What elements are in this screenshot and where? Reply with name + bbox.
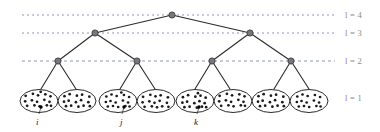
leaf-dot <box>295 101 298 104</box>
leaf-cluster[interactable] <box>290 90 328 113</box>
leaf-dot <box>257 95 260 98</box>
leaf-dot <box>274 99 277 102</box>
edge-root-n3b <box>172 15 250 33</box>
leaf-dot <box>143 105 146 108</box>
tree-edges <box>41 15 309 89</box>
leaf-dot <box>36 101 39 104</box>
marked-dot-k <box>197 105 200 108</box>
leaf-dot <box>105 95 108 98</box>
tree-node-n2b[interactable] <box>134 58 140 64</box>
leaf-dot <box>80 99 83 102</box>
tree-node-root[interactable] <box>169 12 175 18</box>
edge-n2a-leaf2 <box>58 61 76 89</box>
leaf-dot <box>148 100 151 103</box>
leaf-dot <box>282 105 285 108</box>
tree-node-n2d[interactable] <box>288 58 294 64</box>
leaf-cluster[interactable] <box>99 90 137 113</box>
leaf-dot <box>201 105 204 108</box>
leaf-dot <box>26 105 29 108</box>
marked-dot-i <box>39 105 42 108</box>
leaf-dot <box>303 105 306 108</box>
leaf-cluster[interactable] <box>58 90 96 113</box>
leaf-clusters <box>20 90 328 113</box>
tree-node-n3a[interactable] <box>92 30 98 36</box>
leaf-dot <box>156 106 159 109</box>
level-label-3: l = 3 <box>345 28 362 38</box>
leaf-dot <box>109 100 112 103</box>
leaf-dot <box>82 104 85 107</box>
leaf-dot <box>204 96 207 99</box>
leaf-dot <box>227 104 230 107</box>
leaf-dot <box>77 105 80 108</box>
leaf-dot <box>39 91 42 94</box>
leaf-dot <box>232 105 235 108</box>
leaf-dot <box>67 99 70 102</box>
leaf-dot <box>166 101 169 104</box>
tree-diagram-canvas <box>0 0 380 132</box>
leaf-dot <box>194 95 197 98</box>
leaf-dot <box>181 101 184 104</box>
edge-n2b-leaf3 <box>120 61 137 89</box>
leaf-cluster[interactable] <box>252 90 290 113</box>
hierarchical-tree-figure: l = 4 l = 3 l = 2 l = 1 i j k <box>0 0 380 132</box>
leaf-dot <box>106 105 109 108</box>
leaf-dot <box>63 95 66 98</box>
leaf-dot <box>308 106 311 109</box>
level-guide-lines <box>22 15 335 61</box>
leaf-dot <box>230 101 233 104</box>
leaf-dot <box>45 104 48 107</box>
leaf-dot <box>24 95 27 98</box>
leaf-dot <box>43 99 46 102</box>
leaf-dot <box>115 95 118 98</box>
leaf-dot <box>110 93 113 96</box>
leaf-dot <box>319 96 322 99</box>
leaf-dot <box>205 106 208 109</box>
leaf-cluster[interactable] <box>137 90 175 113</box>
edge-root-n3a <box>95 15 172 33</box>
leaf-dot <box>88 95 91 98</box>
leaf-dot <box>87 101 90 104</box>
leaf-dot <box>33 104 36 107</box>
leaf-ellipse <box>176 90 214 113</box>
leaf-cluster[interactable] <box>176 90 214 113</box>
edge-n3a-n2a <box>58 33 95 61</box>
leaf-dot <box>183 106 186 109</box>
leaf-dot <box>49 95 52 98</box>
edge-n2d-leaf8 <box>291 61 309 89</box>
leaf-dot <box>319 105 322 108</box>
leaf-cluster[interactable] <box>214 90 252 113</box>
leaf-dot <box>276 104 279 107</box>
leaf-dot <box>218 100 221 103</box>
leaf-dot <box>32 93 35 96</box>
leaf-dot <box>226 93 229 96</box>
node-label-i: i <box>36 117 39 127</box>
leaf-dot <box>275 93 278 96</box>
leaf-dot <box>70 104 73 107</box>
leaf-dot <box>243 95 246 98</box>
edge-n2c-leaf5 <box>195 61 212 89</box>
tree-node-n2a[interactable] <box>55 58 61 64</box>
leaf-dot <box>186 100 189 103</box>
leaf-dot <box>269 101 272 104</box>
leaf-dot <box>44 93 47 96</box>
edge-n3b-n2c <box>212 33 250 61</box>
leaf-dot <box>314 94 317 97</box>
leaf-dot <box>262 93 265 96</box>
leaf-dot <box>218 95 221 98</box>
leaf-dot <box>50 105 53 108</box>
leaf-dot <box>187 94 190 97</box>
leaf-cluster[interactable] <box>20 90 58 113</box>
node-label-k: k <box>194 117 198 127</box>
leaf-dot <box>88 105 91 108</box>
leaf-dot <box>239 104 242 107</box>
leaf-dot <box>188 105 191 108</box>
leaf-dot <box>167 105 170 108</box>
tree-node-n2c[interactable] <box>209 58 215 64</box>
edge-n3b-n2d <box>250 33 291 61</box>
leaf-dot <box>238 93 241 96</box>
leaf-dot <box>167 96 170 99</box>
leaf-dot <box>305 101 308 104</box>
marked-dot-j <box>122 105 125 108</box>
leaf-dot <box>261 99 264 102</box>
tree-node-n3b[interactable] <box>247 30 253 36</box>
